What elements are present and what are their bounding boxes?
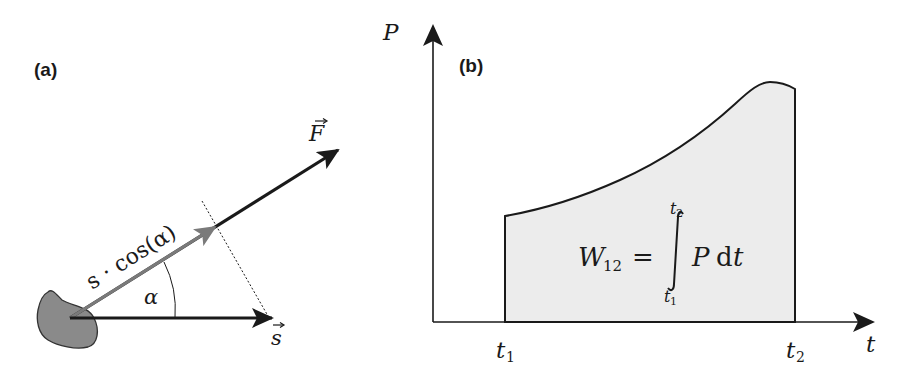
displacement-label: s — [271, 326, 282, 350]
x-axis-label: t — [866, 331, 876, 357]
svg-text:d: d — [716, 242, 733, 272]
svg-text:t: t — [733, 242, 744, 272]
angle-alpha-label: α — [144, 285, 158, 309]
t2-tick-label: t 2 — [786, 337, 805, 365]
t1-tick-label: t 1 — [496, 337, 515, 365]
work-area — [505, 82, 795, 322]
svg-text:1: 1 — [670, 295, 677, 308]
angle-arc — [164, 262, 175, 318]
projection-dashed-line — [202, 201, 268, 316]
svg-text:1: 1 — [506, 349, 515, 365]
panel-a-label: (a) — [34, 59, 57, 80]
work-power-figure: (a) α F s s · cos(α) — [0, 0, 906, 376]
svg-text:P: P — [691, 242, 710, 272]
panel-b-label: (b) — [459, 55, 483, 76]
svg-text:2: 2 — [796, 349, 805, 365]
svg-text:=: = — [632, 242, 654, 272]
y-axis-label: P — [382, 19, 399, 45]
force-label-group: F — [308, 119, 327, 147]
svg-text:12: 12 — [603, 257, 622, 275]
svg-text:2: 2 — [676, 207, 683, 220]
force-label: F — [308, 121, 325, 146]
displacement-label-group: s — [271, 323, 284, 351]
panel-b: (b) P t t 1 t 2 W 12 = t 2 t 1 P d t — [382, 19, 876, 365]
svg-text:t: t — [786, 337, 796, 363]
panel-a: (a) α F s s · cos(α) — [34, 59, 338, 350]
svg-text:t: t — [496, 337, 506, 363]
